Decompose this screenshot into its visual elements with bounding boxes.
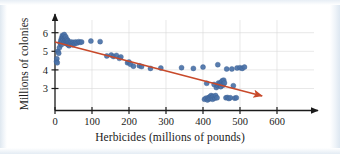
scatter-point bbox=[56, 51, 61, 56]
y-tick-label: 5 bbox=[43, 46, 48, 57]
scatter-point bbox=[79, 40, 84, 45]
scatter-point bbox=[234, 95, 239, 100]
y-tick-label: 4 bbox=[43, 65, 49, 76]
scatter-point bbox=[222, 80, 227, 85]
scatter-point bbox=[215, 95, 220, 100]
scatter-point bbox=[229, 66, 234, 71]
scatter-point bbox=[179, 65, 184, 70]
gridlines bbox=[55, 20, 314, 111]
scatter-point bbox=[131, 64, 136, 69]
scatter-plot-figure: 01002003004005006003456 Herbicides (mill… bbox=[0, 0, 340, 154]
x-tick-label: 100 bbox=[84, 116, 100, 127]
x-tick-label: 200 bbox=[121, 116, 137, 127]
y-tick-label: 3 bbox=[43, 83, 48, 94]
y-tick-label: 6 bbox=[43, 28, 48, 39]
axis-tickmarks bbox=[52, 33, 278, 114]
x-tick-label: 400 bbox=[195, 116, 211, 127]
scatter-point bbox=[228, 95, 233, 100]
scatter-point bbox=[224, 66, 229, 71]
scatter-point bbox=[191, 66, 196, 71]
x-tick-label: 500 bbox=[232, 116, 248, 127]
scatter-point bbox=[215, 62, 220, 67]
y-axis-title: Millions of colonies bbox=[18, 9, 30, 119]
scatter-point bbox=[55, 60, 60, 65]
axis-lines bbox=[55, 14, 318, 111]
x-tick-label: 300 bbox=[158, 116, 174, 127]
scatter-point bbox=[242, 65, 247, 70]
scatter-point bbox=[98, 39, 103, 44]
x-tick-label: 600 bbox=[269, 116, 285, 127]
scatter-point bbox=[201, 65, 206, 70]
scatter-point bbox=[88, 39, 93, 44]
x-tick-label: 0 bbox=[52, 116, 57, 127]
x-axis-title: Herbicides (millions of pounds) bbox=[0, 131, 340, 143]
